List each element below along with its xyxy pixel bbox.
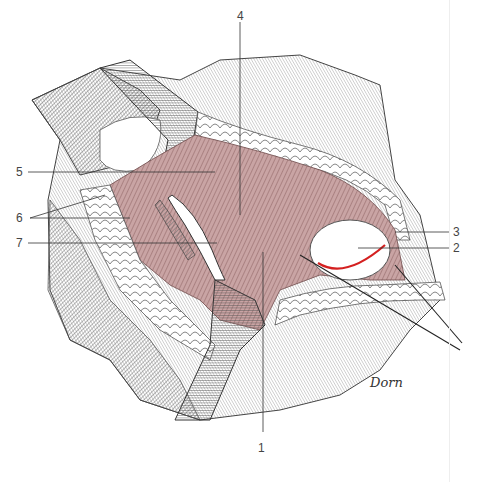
- label-3: 3: [453, 226, 460, 238]
- label-7: 7: [16, 237, 23, 249]
- label-4: 4: [237, 10, 244, 22]
- organ-structure: [310, 220, 390, 280]
- artist-signature: Dorn: [370, 375, 403, 390]
- page-divider: [449, 0, 450, 482]
- label-1: 1: [258, 442, 265, 454]
- label-5: 5: [16, 166, 23, 178]
- label-2: 2: [453, 242, 460, 254]
- label-6: 6: [16, 212, 23, 224]
- anatomical-illustration: [0, 0, 478, 482]
